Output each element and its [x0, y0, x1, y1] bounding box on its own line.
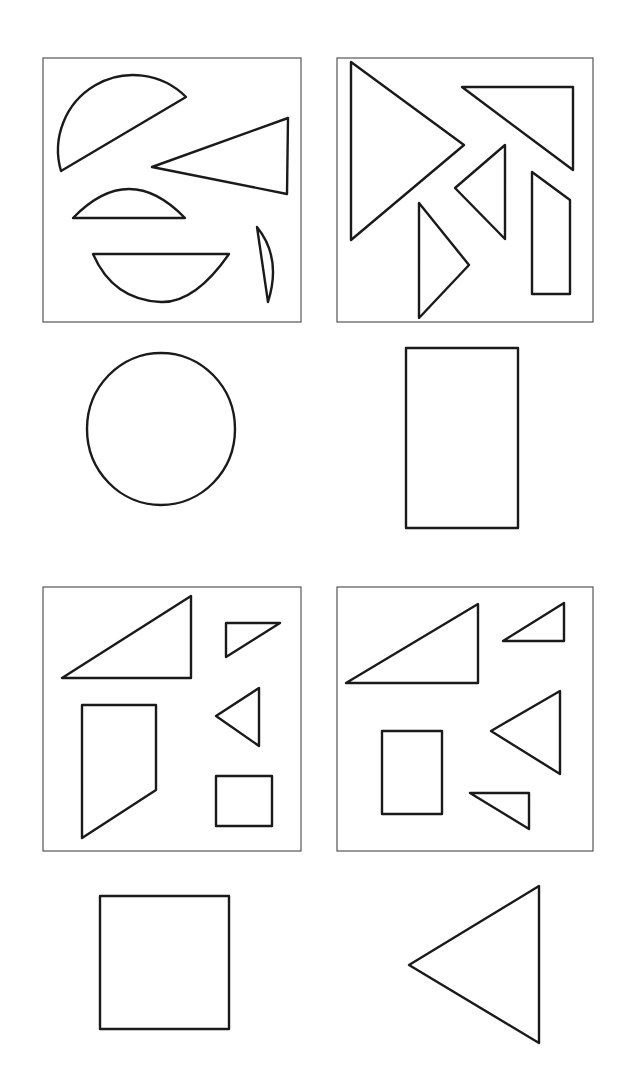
target-circle: [87, 353, 235, 505]
piece-right-triangle: [462, 87, 573, 170]
piece-rectangle: [382, 731, 442, 814]
piece-large-isosceles-triangle: [351, 62, 464, 240]
piece-semicircle-segment: [93, 254, 229, 302]
piece-thin-sliver: [257, 227, 273, 302]
piece-acute-triangle: [152, 118, 288, 194]
piece-small-arc-segment: [73, 189, 185, 218]
piece-small-right-triangle-lower: [470, 793, 529, 829]
piece-large-right-triangle: [62, 596, 191, 678]
panel-2: [337, 58, 593, 322]
piece-small-triangle: [216, 688, 259, 746]
panel-3: [43, 587, 301, 851]
piece-small-square: [216, 776, 272, 826]
piece-small-right-triangle: [503, 603, 564, 641]
piece-right-triangle-lower: [419, 203, 469, 318]
piece-large-right-triangle: [346, 604, 478, 683]
panel-4-frame: [337, 587, 593, 851]
target-rectangle: [406, 348, 518, 528]
piece-trapezoid: [82, 705, 156, 838]
piece-large-semicircle-segment: [58, 75, 186, 171]
panel-1: [43, 58, 301, 322]
piece-trapezoid: [532, 172, 570, 294]
target-square: [100, 896, 229, 1029]
target-triangle: [409, 886, 539, 1043]
puzzle-diagram: [0, 0, 630, 1084]
piece-small-right-triangle: [226, 623, 280, 657]
piece-small-triangle: [455, 145, 505, 239]
piece-medium-triangle: [491, 691, 560, 774]
panel-4: [337, 587, 593, 851]
